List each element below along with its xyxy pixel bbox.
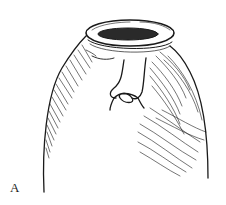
figure-label: A bbox=[10, 180, 19, 196]
right-hatching bbox=[138, 52, 206, 176]
top-opening-inner bbox=[98, 28, 158, 40]
left-hatching bbox=[46, 45, 92, 158]
suture-knot bbox=[110, 58, 146, 110]
right-outline bbox=[170, 46, 208, 178]
left-outline bbox=[44, 36, 86, 192]
stump-illustration bbox=[0, 0, 226, 205]
